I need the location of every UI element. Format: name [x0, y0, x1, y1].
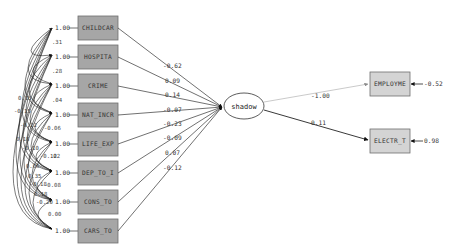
svg-text:HOSPITA: HOSPITA	[84, 53, 112, 60]
svg-text:CARS_TO: CARS_TO	[84, 227, 112, 235]
svg-text:1.00: 1.00	[55, 140, 70, 147]
svg-text:-0.52: -0.52	[424, 80, 443, 87]
svg-text:0.35: 0.35	[28, 173, 41, 179]
svg-text:DEP_TO_I: DEP_TO_I	[82, 169, 114, 177]
box-childcar[interactable]: CHILDCAR	[78, 16, 118, 40]
svg-text:.04: .04	[52, 97, 63, 103]
svg-text:-0.15: -0.15	[14, 108, 31, 114]
svg-text:0.98: 0.98	[424, 137, 439, 144]
svg-text:-0.20: -0.20	[36, 199, 53, 205]
svg-text:0.06: 0.06	[26, 163, 39, 169]
svg-text:1.00: 1.00	[55, 169, 70, 176]
svg-text:-0.23: -0.23	[163, 120, 182, 127]
svg-text:0.13: 0.13	[18, 95, 31, 101]
svg-text:.31: .31	[52, 39, 62, 45]
latent-shadow[interactable]: shadow	[224, 93, 264, 119]
svg-text:1.00: 1.00	[55, 198, 70, 205]
box-hospita[interactable]: HOSPITA	[78, 45, 118, 69]
svg-text:-0.18: -0.18	[30, 181, 47, 187]
svg-text:CONS_TO: CONS_TO	[84, 198, 112, 206]
svg-text:EMPLOYME: EMPLOYME	[374, 80, 406, 87]
svg-text:-0.62: -0.62	[163, 62, 182, 69]
svg-text:-0.07: -0.07	[163, 106, 182, 113]
box-life-exp[interactable]: LIFE_EXP	[78, 132, 118, 156]
svg-text:-0.12: -0.12	[40, 153, 57, 159]
svg-text:1.00: 1.00	[55, 227, 70, 234]
box-cons-to[interactable]: CONS_TO	[78, 190, 118, 214]
svg-text:1.00: 1.00	[55, 111, 70, 118]
svg-text:0.14: 0.14	[165, 91, 180, 98]
svg-text:shadow: shadow	[231, 103, 257, 111]
svg-text:-0.10: -0.10	[22, 145, 39, 151]
svg-text:-1.00: -1.00	[311, 92, 330, 99]
indicator-path-coefficients: -1.00 0.11	[311, 92, 330, 126]
cause-paths	[118, 28, 222, 231]
box-electr-t[interactable]: ELECTR_T	[370, 129, 410, 153]
box-nat-incr[interactable]: NAT_INCR	[78, 103, 118, 127]
box-crime[interactable]: CRIME	[78, 74, 118, 98]
error-terms: -0.52 0.98	[411, 80, 443, 144]
cause-boxes: CHILDCAR HOSPITA CRIME NAT_INCR LIFE_EXP…	[78, 16, 118, 243]
svg-text:0.07: 0.07	[165, 149, 180, 156]
svg-text:0.00: 0.00	[48, 211, 61, 217]
svg-text:-0.09: -0.09	[163, 134, 182, 141]
svg-text:0.18: 0.18	[16, 136, 30, 142]
box-employme[interactable]: EMPLOYME	[370, 72, 410, 96]
svg-text:CRIME: CRIME	[88, 82, 108, 89]
svg-text:-0.12: -0.12	[163, 164, 182, 171]
svg-text:CHILDCAR: CHILDCAR	[82, 24, 114, 31]
svg-text:0.09: 0.09	[165, 77, 180, 84]
svg-text:1.00: 1.00	[55, 24, 70, 31]
svg-text:-0.06: -0.06	[44, 125, 61, 131]
svg-text:0.11: 0.11	[311, 119, 326, 126]
svg-text:-0.22: -0.22	[20, 122, 37, 128]
cause-path-coefficients: -0.62 0.09 0.14 -0.07 -0.23 -0.09 0.07 -…	[163, 62, 182, 171]
svg-text:LIFE_EXP: LIFE_EXP	[82, 140, 114, 148]
svg-text:NAT_INCR: NAT_INCR	[82, 111, 114, 119]
svg-text:0.18: 0.18	[34, 191, 48, 197]
svg-text:.28: .28	[52, 68, 63, 74]
svg-text:1.00: 1.00	[55, 53, 70, 60]
box-cars-to[interactable]: CARS_TO	[78, 219, 118, 243]
path-diagram: .31 .28 .04 -0.06 .02 -0.12 -0.08 0.00 0…	[0, 0, 452, 252]
svg-text:ELECTR_T: ELECTR_T	[374, 137, 406, 145]
svg-text:1.00: 1.00	[55, 82, 70, 89]
box-dep-to-i[interactable]: DEP_TO_I	[78, 161, 118, 185]
